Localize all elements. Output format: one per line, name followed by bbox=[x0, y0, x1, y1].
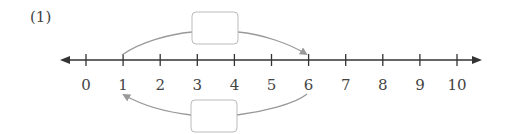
tick-label: 2 bbox=[155, 76, 165, 94]
tick-label: 9 bbox=[415, 76, 425, 94]
tick-label: 5 bbox=[267, 76, 277, 94]
tick-labels: 012345678910 bbox=[81, 76, 466, 94]
forward-jump-answer-box[interactable] bbox=[192, 12, 238, 44]
forward-jump-arc bbox=[122, 32, 192, 55]
number-line-diagram: (1) 012345678910 bbox=[0, 0, 528, 134]
problem-label: (1) bbox=[30, 8, 51, 26]
tick-label: 0 bbox=[81, 76, 91, 94]
tick-label: 3 bbox=[193, 76, 203, 94]
tick-label: 7 bbox=[341, 76, 351, 94]
forward-jump-arc-end bbox=[238, 32, 306, 54]
tick-label: 1 bbox=[118, 76, 128, 94]
backward-jump-answer-box[interactable] bbox=[191, 100, 237, 132]
tick-label: 4 bbox=[230, 76, 240, 94]
left-arrow-icon bbox=[60, 56, 70, 64]
tick-label: 6 bbox=[304, 76, 314, 94]
right-arrow-icon bbox=[472, 56, 482, 64]
backward-jump-arc-start bbox=[237, 94, 307, 115]
tick-label: 8 bbox=[378, 76, 388, 94]
tick-label: 10 bbox=[447, 76, 466, 94]
backward-jump-arc bbox=[124, 95, 191, 115]
